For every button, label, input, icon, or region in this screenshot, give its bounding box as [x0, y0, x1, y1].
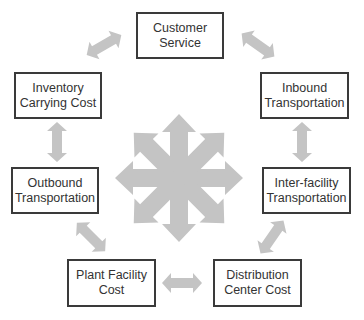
- node-label-line2: Transportation: [15, 191, 95, 206]
- node-label-line1: Outbound: [28, 176, 83, 191]
- double-arrow-inventory-outbound-icon: [47, 122, 67, 162]
- node-inter-facility-transportation: Inter-facility Transportation: [262, 167, 351, 214]
- node-label-line1: Inter-facility: [275, 176, 339, 191]
- double-arrow-inbound-interfacility-icon: [292, 122, 312, 162]
- node-label-line1: Inbound: [282, 81, 327, 96]
- double-arrow-inventory-customer-icon: [82, 26, 127, 63]
- node-inventory-carrying-cost: Inventory Carrying Cost: [14, 72, 102, 119]
- node-label-line1: Distribution: [226, 268, 289, 283]
- node-label-line1: Customer: [153, 21, 207, 36]
- node-label-line2: Service: [159, 36, 201, 51]
- node-plant-facility-cost: Plant Facility Cost: [67, 259, 156, 307]
- central-star-arrows-icon: [115, 114, 243, 242]
- node-outbound-transportation: Outbound Transportation: [11, 167, 99, 214]
- double-arrow-plant-distribution-icon: [162, 273, 202, 293]
- node-inbound-transportation: Inbound Transportation: [260, 72, 349, 119]
- node-distribution-center-cost: Distribution Center Cost: [213, 259, 302, 307]
- node-label-line2: Carrying Cost: [20, 96, 96, 111]
- node-label-line2: Cost: [99, 283, 125, 298]
- node-label-line1: Plant Facility: [76, 268, 147, 283]
- node-label-line2: Center Cost: [224, 283, 291, 298]
- double-arrow-interfacility-distribution-icon: [252, 215, 291, 259]
- node-customer-service: Customer Service: [136, 12, 224, 59]
- double-arrow-outbound-plant-icon: [70, 216, 112, 258]
- logistics-cost-tradeoff-diagram: Customer Service Inventory Carrying Cost…: [0, 0, 364, 320]
- node-label-line2: Transportation: [264, 96, 344, 111]
- node-label-line1: Inventory: [32, 81, 83, 96]
- double-arrow-customer-inbound-icon: [236, 25, 280, 64]
- node-label-line2: Transportation: [266, 191, 346, 206]
